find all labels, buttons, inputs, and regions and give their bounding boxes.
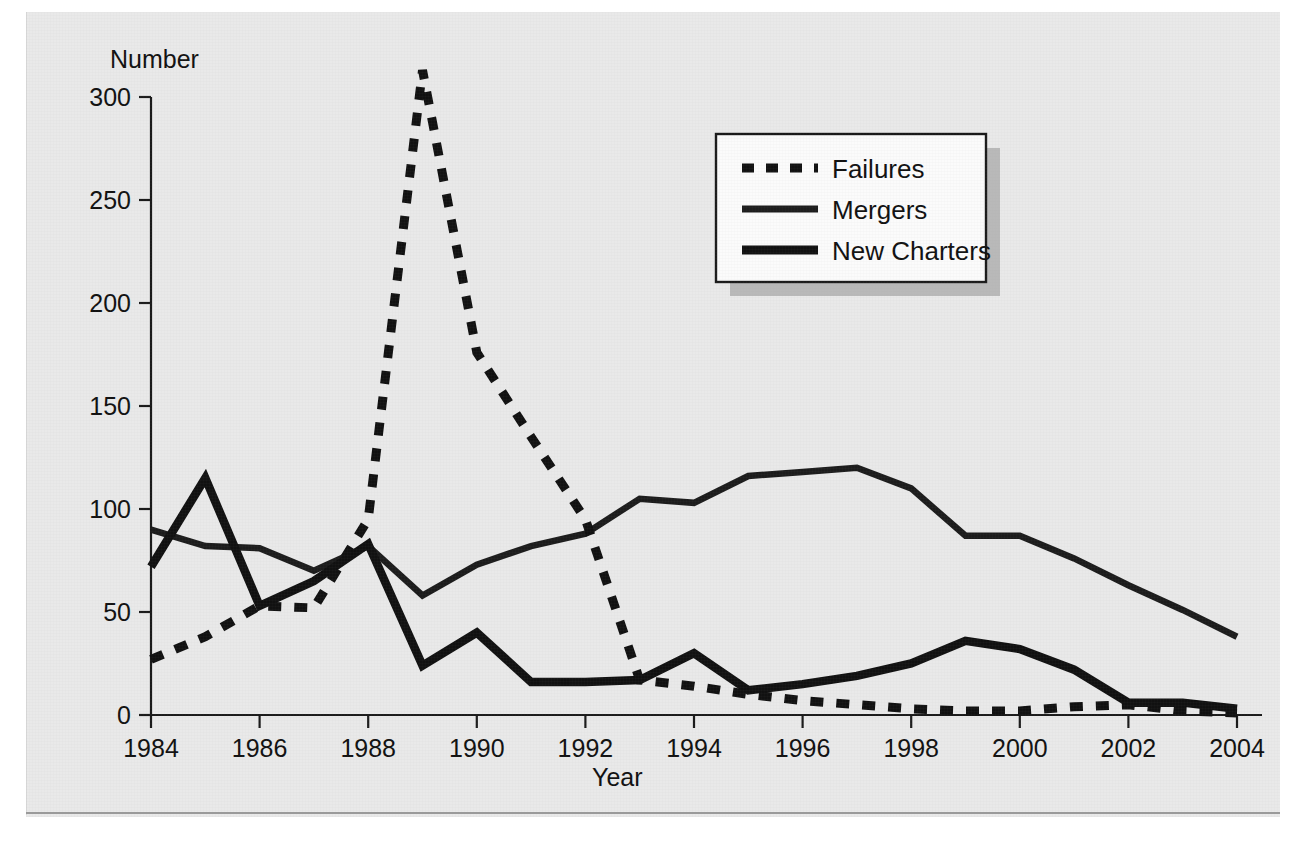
x-tick-label: 1994 xyxy=(666,734,722,762)
x-tick-label: 1990 xyxy=(449,734,505,762)
x-tick-label: 2004 xyxy=(1209,734,1265,762)
chart-legend[interactable]: Failures Mergers New Charters xyxy=(716,134,1000,296)
series-line-mergers xyxy=(151,468,1237,637)
y-axis-ticks xyxy=(139,97,151,715)
x-axis-title: Year xyxy=(592,763,643,791)
x-tick-label: 1998 xyxy=(883,734,939,762)
x-axis-ticks xyxy=(151,715,1237,728)
figure-page: Number 050100150200250300 19841986198819… xyxy=(0,0,1306,845)
y-tick-label: 250 xyxy=(89,186,131,214)
x-tick-label: 2000 xyxy=(992,734,1048,762)
series-line-failures xyxy=(151,70,1237,713)
y-axis-tick-labels: 050100150200250300 xyxy=(89,83,131,729)
x-tick-label: 1984 xyxy=(123,734,179,762)
x-tick-label: 1988 xyxy=(340,734,396,762)
y-tick-label: 50 xyxy=(103,598,131,626)
line-chart: Number 050100150200250300 19841986198819… xyxy=(0,0,1306,845)
x-tick-label: 1996 xyxy=(775,734,831,762)
x-tick-label: 1992 xyxy=(558,734,614,762)
y-tick-label: 200 xyxy=(89,289,131,317)
y-tick-label: 0 xyxy=(117,701,131,729)
y-tick-label: 150 xyxy=(89,392,131,420)
y-tick-label: 300 xyxy=(89,83,131,111)
legend-label-mergers: Mergers xyxy=(832,195,927,225)
legend-label-new-charters: New Charters xyxy=(832,236,991,266)
x-axis-tick-labels: 1984198619881990199219941996199820002002… xyxy=(123,734,1265,762)
series-line-new-charters xyxy=(151,478,1237,709)
y-tick-label: 100 xyxy=(89,495,131,523)
x-tick-label: 2002 xyxy=(1101,734,1157,762)
legend-label-failures: Failures xyxy=(832,154,924,184)
y-axis-title: Number xyxy=(110,45,199,73)
x-tick-label: 1986 xyxy=(232,734,288,762)
